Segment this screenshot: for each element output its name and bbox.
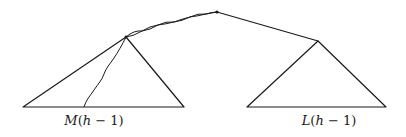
edge-root-to-right [217, 12, 318, 41]
right-subtree-triangle [247, 41, 386, 107]
left-subtree-triangle [23, 37, 184, 107]
left-subtree-label: M(h − 1) [63, 113, 123, 128]
wavy-edge-root-to-left [126, 12, 217, 37]
right-subtree-label: L(h − 1) [301, 113, 357, 128]
wavy-path-left-subtree [84, 37, 126, 107]
tree-diagram: M(h − 1) L(h − 1) [0, 0, 406, 137]
